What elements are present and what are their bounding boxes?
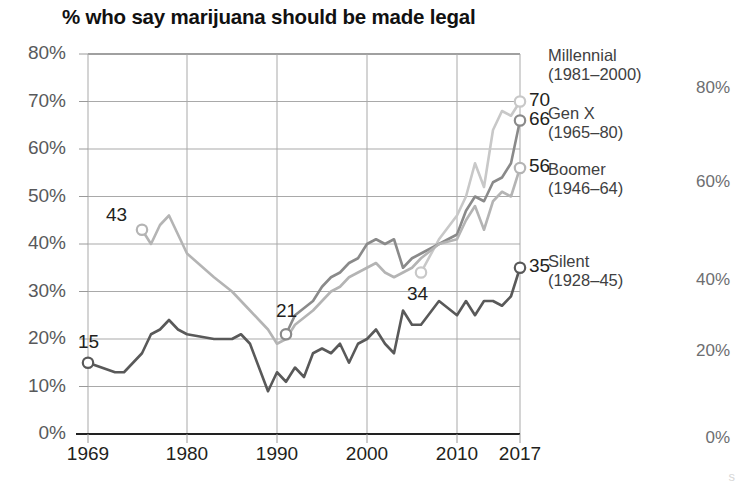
start-label-boomer: 43 [106, 204, 127, 226]
x-axis-tick-label: 2000 [332, 443, 402, 465]
right-axis-tick-label: 40% [660, 270, 730, 290]
legend-item-boomer: Boomer(1946–64) [548, 160, 623, 199]
start-label-gen-x: 21 [276, 300, 297, 322]
legend-item-name: Millennial [548, 46, 617, 64]
y-axis-tick-label: 80% [0, 42, 66, 64]
gridlines [76, 54, 520, 443]
series-marker-gen-x-start [281, 329, 291, 339]
y-axis-tick-label: 20% [0, 327, 66, 349]
chart-container: % who say marijuana should be made legal… [0, 0, 741, 486]
end-label-boomer: 56 [529, 155, 550, 177]
series-lines [88, 102, 520, 392]
series-marker-millennial-end [515, 96, 525, 106]
corner-mark: s [729, 469, 736, 484]
legend-item-silent: Silent(1928–45) [548, 252, 623, 291]
series-line-silent [88, 268, 520, 392]
legend-item-years: (1981–2000) [548, 65, 642, 84]
y-axis-tick-label: 60% [0, 137, 66, 159]
legend-item-name: Boomer [548, 160, 606, 178]
legend-item-years: (1928–45) [548, 271, 623, 290]
series-marker-boomer-end [515, 163, 525, 173]
start-label-silent: 15 [78, 331, 99, 353]
y-axis-tick-label: 30% [0, 280, 66, 302]
legend-item-gen-x: Gen X(1965–80) [548, 104, 623, 143]
x-axis-tick-label: 2017 [485, 443, 555, 465]
x-axis-tick-label: 1980 [152, 443, 222, 465]
legend-item-name: Silent [548, 252, 589, 270]
legend-item-name: Gen X [548, 104, 595, 122]
series-marker-gen-x-end [515, 115, 525, 125]
y-axis-tick-label: 70% [0, 90, 66, 112]
right-axis-tick-label: 0% [660, 428, 730, 448]
right-axis-tick-label: 20% [660, 341, 730, 361]
series-marker-millennial-start [416, 267, 426, 277]
y-axis-tick-label: 0% [0, 422, 66, 444]
legend-item-millennial: Millennial(1981–2000) [548, 46, 642, 85]
x-axis-tick-label: 1969 [53, 443, 123, 465]
series-marker-boomer-start [137, 225, 147, 235]
right-axis-tick-label: 60% [660, 172, 730, 192]
start-label-millennial: 34 [407, 283, 428, 305]
series-marker-silent-start [83, 358, 93, 368]
legend-item-years: (1946–64) [548, 179, 623, 198]
legend-item-years: (1965–80) [548, 123, 623, 142]
right-axis-tick-label: 80% [660, 78, 730, 98]
y-axis-tick-label: 40% [0, 232, 66, 254]
y-axis-tick-label: 10% [0, 375, 66, 397]
end-label-gen-x: 66 [529, 108, 550, 130]
y-axis-tick-label: 50% [0, 185, 66, 207]
x-axis-tick-label: 2010 [422, 443, 492, 465]
series-line-boomer [142, 168, 520, 344]
x-axis-tick-label: 1990 [242, 443, 312, 465]
series-marker-silent-end [515, 263, 525, 273]
end-label-silent: 35 [529, 255, 550, 277]
